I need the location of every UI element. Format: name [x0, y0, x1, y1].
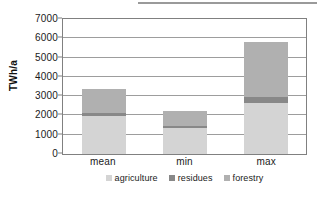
- legend-swatch-icon-agriculture: [106, 175, 112, 181]
- legend-swatch-icon-forestry: [224, 175, 230, 181]
- legend-swatch-icon-residues: [169, 175, 175, 181]
- chart-legend: agricultureresiduesforestry: [62, 173, 307, 183]
- x-axis-category-labels: meanminmax: [62, 156, 307, 167]
- bar-segment-min-agriculture[interactable]: [163, 128, 207, 154]
- bar-segment-mean-agriculture[interactable]: [82, 116, 126, 154]
- top-divider-rule: [138, 2, 317, 4]
- y-tick-label-7000: 7000: [35, 13, 58, 24]
- y-tick-label-6000: 6000: [35, 32, 58, 43]
- y-axis-tick-labels: 70006000500040003000200010000: [0, 18, 58, 153]
- bar-stack-min[interactable]: [163, 111, 207, 154]
- legend-entry-forestry[interactable]: forestry: [224, 173, 264, 183]
- y-tick-label-3000: 3000: [35, 90, 58, 101]
- y-tick-label-2000: 2000: [35, 109, 58, 120]
- bar-segment-max-forestry[interactable]: [244, 42, 288, 97]
- legend-entry-residues[interactable]: residues: [169, 173, 213, 183]
- bars-layer: [63, 19, 306, 154]
- legend-label-residues: residues: [178, 173, 213, 183]
- y-tick-label-1000: 1000: [35, 128, 58, 139]
- bar-segment-mean-forestry[interactable]: [82, 89, 126, 113]
- legend-label-forestry: forestry: [233, 173, 264, 183]
- y-tick-label-5000: 5000: [35, 51, 58, 62]
- bar-segment-min-forestry[interactable]: [163, 111, 207, 126]
- x-label-mean: mean: [73, 156, 133, 167]
- x-label-max: max: [236, 156, 296, 167]
- bar-stack-mean[interactable]: [82, 89, 126, 154]
- x-label-min: min: [154, 156, 214, 167]
- stacked-bar-chart: TWh/a 70006000500040003000200010000 mean…: [0, 0, 317, 201]
- bar-segment-max-agriculture[interactable]: [244, 103, 288, 154]
- legend-label-agriculture: agriculture: [115, 173, 158, 183]
- legend-entry-agriculture[interactable]: agriculture: [106, 173, 158, 183]
- plot-area: [62, 18, 307, 155]
- bar-stack-max[interactable]: [244, 42, 288, 154]
- y-tick-label-4000: 4000: [35, 70, 58, 81]
